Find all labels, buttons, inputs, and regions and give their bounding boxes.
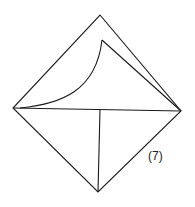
horizontal-diagonal xyxy=(13,108,181,111)
flap-right-edge xyxy=(102,40,181,111)
outer-square xyxy=(13,15,181,192)
fold-diagram xyxy=(0,0,195,207)
curved-flap-edge xyxy=(20,40,102,108)
step-label: (7) xyxy=(148,149,163,163)
vertical-crease xyxy=(98,109,100,192)
